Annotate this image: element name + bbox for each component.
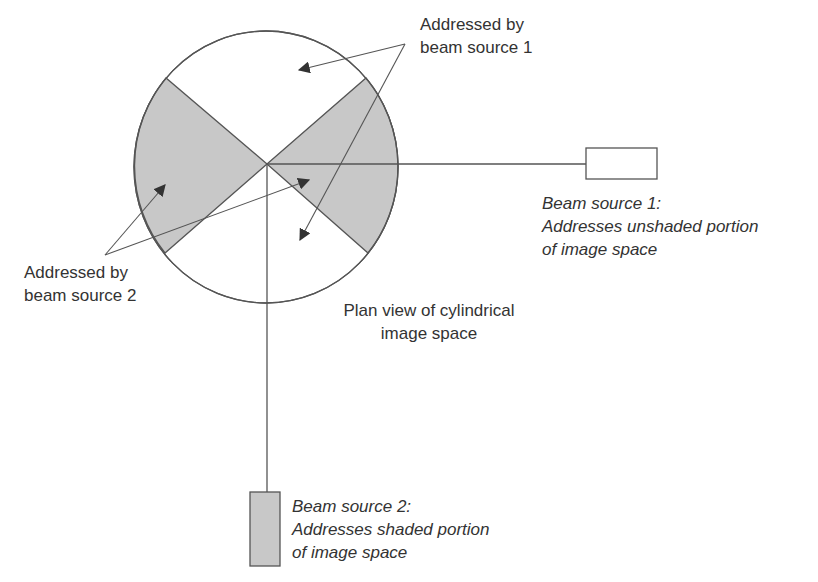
image-space-caption-line1: Plan view of cylindrical <box>319 299 539 322</box>
image-space-caption: Plan view of cylindrical image space <box>319 299 539 345</box>
callout-beam2-label: Addressed by beam source 2 <box>24 261 136 307</box>
beam-source-2-desc-line2: of image space <box>292 541 490 564</box>
beam-source-1-box <box>586 148 657 179</box>
beam-source-2-description: Beam source 2: Addresses shaded portion … <box>292 495 490 564</box>
beam-source-2-desc-line1: Addresses shaded portion <box>292 518 490 541</box>
callout-beam1-line1: Addressed by <box>420 13 532 36</box>
beam-source-1-title: Beam source 1: <box>542 192 758 215</box>
beam-source-2-title: Beam source 2: <box>292 495 490 518</box>
beam-source-1-desc-line1: Addresses unshaded portion <box>542 215 758 238</box>
beam-source-2-box <box>250 492 280 566</box>
image-space-caption-line2: image space <box>319 322 539 345</box>
callout-beam1-line2: beam source 1 <box>420 36 532 59</box>
callout-beam2-line2: beam source 2 <box>24 284 136 307</box>
callout-beam2-line1: Addressed by <box>24 261 136 284</box>
beam-source-1-description: Beam source 1: Addresses unshaded portio… <box>542 192 758 261</box>
callout-beam1-label: Addressed by beam source 1 <box>420 13 532 59</box>
beam-source-1-desc-line2: of image space <box>542 238 758 261</box>
